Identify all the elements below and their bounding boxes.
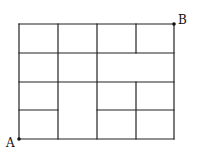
street-grid-diagram (0, 0, 199, 156)
label-b: B (178, 14, 187, 26)
label-a: A (6, 137, 15, 149)
point-a-dot (17, 137, 21, 141)
point-b-dot (172, 22, 176, 26)
